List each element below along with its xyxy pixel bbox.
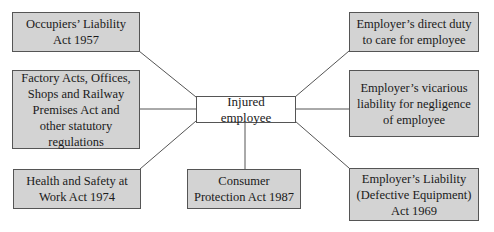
node-health-safety: Health and Safety at Work Act 1974 xyxy=(13,169,141,209)
node-label: Occupiers’ Liability Act 1957 xyxy=(19,16,133,48)
link-hsw xyxy=(140,121,196,169)
node-label: Employer’s Liability (Defective Equipmen… xyxy=(356,171,472,219)
node-factory-acts: Factory Acts, Offices, Shops and Railway… xyxy=(12,70,140,149)
node-label: Health and Safety at Work Act 1974 xyxy=(20,173,134,205)
node-employer-direct-duty: Employer’s direct duty to care for emplo… xyxy=(349,12,479,52)
node-label: Employer’s vicarious liability for negli… xyxy=(356,80,472,128)
link-eld xyxy=(295,121,349,168)
node-label: Consumer Protection Act 1987 xyxy=(194,173,294,205)
node-occupiers-liability: Occupiers’ Liability Act 1957 xyxy=(12,12,140,52)
node-employers-liability-defective-equipment: Employer’s Liability (Defective Equipmen… xyxy=(349,168,479,221)
center-label: Injured employee xyxy=(203,94,289,126)
link-direct xyxy=(295,51,349,97)
node-label: Employer’s direct duty to care for emplo… xyxy=(356,16,472,48)
node-employer-vicarious-liability: Employer’s vicarious liability for negli… xyxy=(349,70,479,137)
link-occupiers xyxy=(139,51,196,97)
node-consumer-protection: Consumer Protection Act 1987 xyxy=(187,169,301,209)
center-node-injured-employee: Injured employee xyxy=(196,96,296,123)
node-label: Factory Acts, Offices, Shops and Railway… xyxy=(19,70,133,150)
